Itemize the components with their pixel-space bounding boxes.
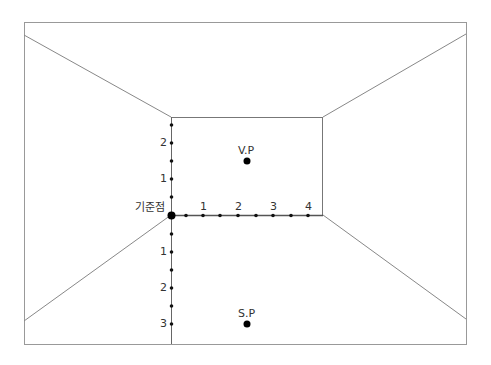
v-up-tick-label-2: 2 [160,137,167,148]
back-wall [172,118,323,216]
v-down-tick-label-1: 1 [160,246,167,257]
h-tick-label-1: 1 [200,201,207,212]
vanishing-point-label: V.P [238,145,254,156]
station-point-label: S.P [238,308,255,319]
diagonal-bottom-left [24,215,171,321]
station-point-dot [244,321,251,328]
v-down-tick-label-3: 3 [160,318,167,329]
origin-label: 기준점 [135,202,165,213]
h-tick-label-2: 2 [235,201,242,212]
v-up-tick-label-1: 1 [160,173,167,184]
diagonal-top-left [24,35,171,117]
diagonal-bottom-right [323,215,466,319]
vanishing-point-dot [244,158,251,165]
h-tick-label-4: 4 [305,201,312,212]
diagonal-top-right [323,34,466,117]
outer-frame [25,23,467,345]
h-tick-label-3: 3 [270,201,277,212]
origin-point [168,212,176,220]
v-down-tick-label-2: 2 [160,282,167,293]
